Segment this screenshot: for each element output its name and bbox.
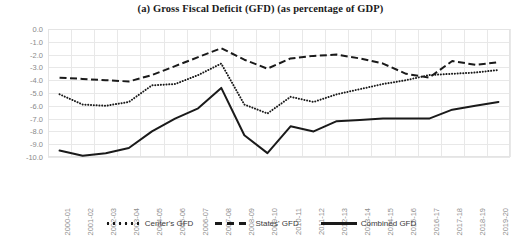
legend-label: Center's GFD [145,219,194,228]
legend-item[interactable]: Combined GFD [321,219,417,228]
y-tick-label: -10.0 [13,153,43,162]
series-line [60,64,499,114]
legend-item[interactable]: States' GFD [215,219,298,228]
legend-swatch-dashed-icon [215,222,251,225]
series-line [60,88,499,156]
y-tick-label: -5.0 [13,89,43,98]
series-line [60,48,499,81]
gridline-horizontal [48,157,510,158]
gridline-vertical [510,29,511,157]
y-tick-label: -6.0 [13,101,43,110]
y-tick-label: -4.0 [13,76,43,85]
y-tick-label: -8.0 [13,127,43,136]
gfd-chart: (a) Gross Fiscal Deficit (GFD) (as perce… [0,0,521,246]
legend-swatch-solid-icon [321,222,357,225]
y-tick-label: -9.0 [13,140,43,149]
y-tick-label: -2.0 [13,50,43,59]
legend-swatch-dotted-icon [105,222,141,225]
y-tick-label: 0.0 [13,25,43,34]
series-lines [48,29,510,157]
legend-label: States' GFD [255,219,298,228]
legend-label: Combined GFD [361,219,417,228]
chart-legend: Center's GFDStates' GFDCombined GFD [0,219,521,228]
x-axis-ticks: 2000-012001-022002-032003-042004-052005-… [48,160,510,212]
plot-area [48,29,510,157]
chart-title: (a) Gross Fiscal Deficit (GFD) (as perce… [0,3,521,14]
y-tick-label: -7.0 [13,114,43,123]
y-tick-label: -1.0 [13,37,43,46]
legend-item[interactable]: Center's GFD [105,219,194,228]
y-tick-label: -3.0 [13,63,43,72]
